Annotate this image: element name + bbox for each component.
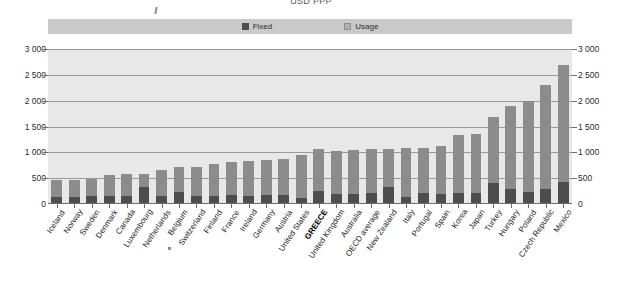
y-tick-label: 1 000	[578, 148, 599, 157]
bar-segment-fixed	[558, 182, 569, 204]
bar-column[interactable]	[121, 174, 132, 204]
bar-column[interactable]	[51, 180, 62, 204]
bar-segment-fixed	[540, 189, 551, 205]
bar-segment-usage	[191, 167, 202, 196]
bar-column[interactable]	[331, 151, 342, 204]
tickmark	[572, 178, 577, 179]
bar-segment-usage	[313, 149, 324, 191]
bar-segment-usage	[453, 135, 464, 193]
bar-segment-usage	[523, 101, 534, 192]
bar-segment-usage	[51, 180, 62, 197]
bar-column[interactable]	[139, 174, 150, 204]
bar-column[interactable]	[243, 161, 254, 204]
tickmark	[572, 75, 577, 76]
bar-column[interactable]	[540, 85, 551, 204]
bar-segment-usage	[69, 180, 80, 197]
bar-segment-usage	[209, 164, 220, 196]
bar-column[interactable]	[296, 155, 307, 204]
bar-column[interactable]	[278, 159, 289, 204]
chart-legend: Fixed Usage	[48, 19, 572, 34]
tickmark	[43, 152, 48, 153]
bar-segment-fixed	[505, 189, 516, 205]
x-axis-label: Korea	[450, 208, 469, 231]
y-tick-label: 3 000	[578, 45, 599, 54]
bar-segment-usage	[243, 161, 254, 196]
square-swatch-icon	[242, 23, 249, 30]
bar-column[interactable]	[505, 106, 516, 204]
bar-column[interactable]	[418, 148, 429, 204]
bar-segment-usage	[418, 148, 429, 193]
bar-segment-usage	[104, 175, 115, 197]
legend-label-usage: Usage	[355, 23, 378, 31]
bar-segment-usage	[366, 149, 377, 193]
bar-segment-usage	[471, 134, 482, 193]
square-swatch-icon	[344, 23, 351, 30]
y-tick-label: 500	[578, 174, 592, 183]
y-tick-label: 1 500	[578, 123, 599, 132]
legend-item-fixed[interactable]: Fixed	[242, 23, 273, 31]
tickmark	[43, 49, 48, 50]
bar-column[interactable]	[156, 170, 167, 204]
chart-container: USD PPP Fixed Usage 3 000 2 500 2 000 1 …	[0, 0, 622, 282]
bar-segment-usage	[383, 149, 394, 187]
bar-segment-usage	[278, 159, 289, 195]
bar-column[interactable]	[401, 148, 412, 204]
bar-segment-usage	[558, 65, 569, 182]
bar-column[interactable]	[191, 167, 202, 204]
legend-item-usage[interactable]: Usage	[344, 23, 378, 31]
bar-segment-fixed	[383, 187, 394, 204]
bar-column[interactable]	[313, 149, 324, 204]
bar-segment-usage	[296, 155, 307, 198]
x-axis-label: Spain	[433, 208, 452, 230]
bar-column[interactable]	[86, 179, 97, 204]
scan-artifact-speck	[154, 7, 157, 14]
bar-column[interactable]	[226, 162, 237, 204]
bar-segment-usage	[348, 150, 359, 194]
bar-segment-usage	[436, 146, 447, 194]
y-tick-label: 2 000	[578, 97, 599, 106]
bar-column[interactable]	[104, 175, 115, 204]
bar-column[interactable]	[453, 135, 464, 204]
bar-segment-usage	[401, 148, 412, 197]
bar-column[interactable]	[383, 149, 394, 204]
bar-segment-usage	[488, 117, 499, 183]
x-axis-labels: IcelandNorwaySwedenDenmarkCanadaLuxembou…	[0, 208, 622, 282]
legend-label-fixed: Fixed	[253, 23, 273, 31]
bar-column[interactable]	[436, 146, 447, 204]
tickmark	[572, 101, 577, 102]
bar-segment-usage	[540, 85, 551, 188]
tickmark	[43, 101, 48, 102]
x-axis-label: France	[220, 208, 241, 234]
bar-column[interactable]	[523, 101, 534, 204]
bar-column[interactable]	[366, 149, 377, 204]
bar-segment-usage	[505, 106, 516, 189]
bar-column[interactable]	[348, 150, 359, 204]
bar-segment-usage	[86, 179, 97, 197]
bar-column[interactable]	[558, 65, 569, 205]
tickmark	[43, 75, 48, 76]
bar-segment-fixed	[488, 183, 499, 204]
bar-column[interactable]	[488, 117, 499, 204]
tickmark	[572, 127, 577, 128]
bar-segment-usage	[156, 170, 167, 196]
bar-segment-usage	[174, 167, 185, 192]
y-tick-label: 2 500	[578, 71, 599, 80]
tickmark	[572, 152, 577, 153]
bar-segment-usage	[139, 174, 150, 187]
bar-column[interactable]	[471, 134, 482, 204]
bar-segment-fixed	[139, 187, 150, 204]
bar-column[interactable]	[174, 167, 185, 204]
tickmark	[43, 178, 48, 179]
x-axis-label: Italy	[401, 208, 417, 225]
bar-column[interactable]	[209, 164, 220, 204]
bar-column[interactable]	[69, 180, 80, 204]
bar-segment-usage	[226, 162, 237, 195]
bar-column[interactable]	[261, 160, 272, 204]
bar-segment-usage	[261, 160, 272, 196]
chart-title: USD PPP	[0, 0, 622, 6]
bar-segment-usage	[121, 174, 132, 196]
tickmark	[43, 127, 48, 128]
bar-segment-usage	[331, 151, 342, 194]
tickmark	[572, 49, 577, 50]
bar-series-group	[48, 49, 572, 204]
